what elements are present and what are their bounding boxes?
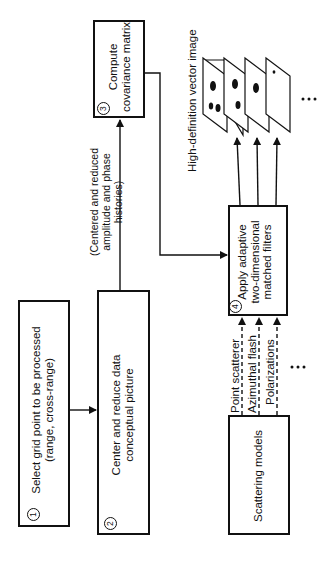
edge-4-to-plane-3 [257,138,258,205]
output-label: High-definition vector image [186,29,199,172]
step-3-text: Compute covariance matrix [107,22,133,112]
step-1-text: Select grid point to be processed (range… [30,320,56,500]
step-2-label: 2 [104,513,117,530]
edge-annotation: (Centered and reduced amplitude and phas… [88,142,124,262]
output-ellipsis [302,98,317,101]
scattering-models-label: Scattering models [252,430,265,522]
edge-4-to-plane-2 [237,138,240,205]
step-1-number: 1 [27,508,40,521]
step-2-number: 2 [104,517,117,530]
edge-4-to-plane-4 [276,138,277,205]
inputs-ellipsis [291,366,306,369]
input-azimuthal-flash: Azimuthal flash [246,335,259,413]
step-1-label: 1 [27,504,40,521]
input-point-scatterer: Point scatterer [229,339,242,413]
step-4-text: Apply adaptive two-dimensional matched f… [236,212,274,312]
input-polarizations: Polarizations [264,339,277,405]
step-2-text: Center and reduce data conceptual pictur… [110,350,136,480]
